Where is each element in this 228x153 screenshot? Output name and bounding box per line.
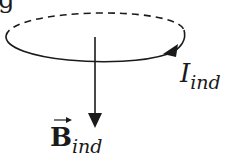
loop-front-solid (6, 36, 168, 62)
current-symbol: I (180, 58, 190, 88)
current-subscript: ind (190, 71, 220, 93)
field-subscript: ind (72, 135, 102, 153)
field-symbol: B (50, 122, 72, 152)
induced-field-label: Bind (50, 122, 102, 152)
induced-current-label: Iind (180, 58, 221, 88)
loop-back-dashed (6, 13, 184, 36)
